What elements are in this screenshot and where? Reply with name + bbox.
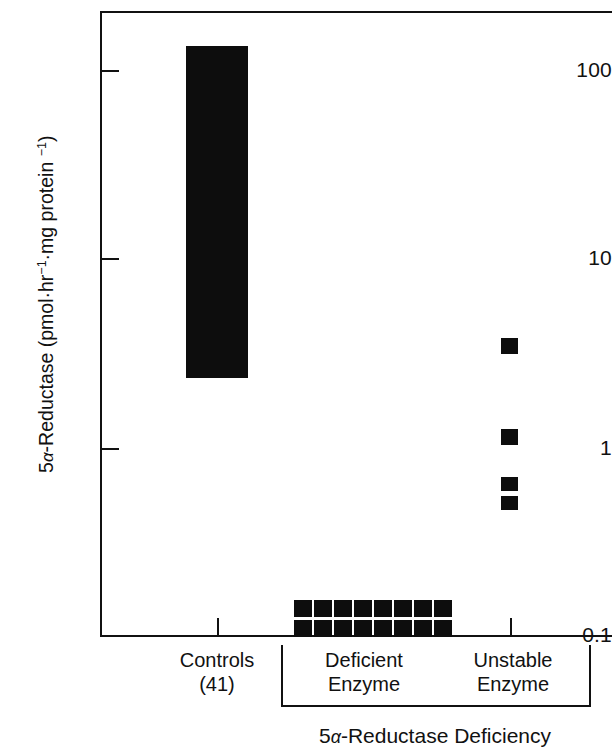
datapoint-unstable xyxy=(501,429,518,445)
plot-top-border xyxy=(100,11,612,13)
y-axis-line xyxy=(100,11,102,637)
figure-panel: 100 10 1 0.1 5α-Reductase (pmol·hr−1·mg … xyxy=(0,0,612,752)
datapoint-deficient xyxy=(314,620,332,637)
y-tick-label-0.1: 0.1 xyxy=(528,624,612,645)
caption-text: -Reductase Deficiency xyxy=(341,724,551,747)
group-label-controls-line2: (41) xyxy=(147,672,287,696)
datapoint-deficient xyxy=(374,600,392,617)
datapoint-deficient xyxy=(434,600,452,617)
datapoint-deficient xyxy=(294,600,312,617)
datapoint-deficient xyxy=(314,600,332,617)
y-tick-mark-1 xyxy=(102,448,119,450)
y-title-superscript-2: −1 xyxy=(35,142,49,156)
datapoint-deficient xyxy=(414,620,432,637)
y-tick-label-100: 100 xyxy=(528,59,612,80)
datapoint-unstable xyxy=(501,496,518,510)
x-tick-mark-unstable xyxy=(510,618,512,635)
datapoint-deficient xyxy=(294,620,312,637)
controls-range-bar xyxy=(186,46,248,378)
y-title-suffix: ) xyxy=(35,136,57,143)
datapoint-deficient xyxy=(434,620,452,637)
group-label-controls: Controls (41) xyxy=(147,648,287,696)
datapoint-unstable xyxy=(501,338,518,354)
datapoint-deficient xyxy=(414,600,432,617)
datapoint-unstable xyxy=(501,477,518,491)
datapoint-deficient xyxy=(334,620,352,637)
datapoint-deficient xyxy=(374,620,392,637)
y-title-prefix: 5 xyxy=(35,462,57,473)
caption-alpha-glyph: α xyxy=(331,727,341,747)
datapoint-deficient xyxy=(354,620,372,637)
datapoint-deficient xyxy=(334,600,352,617)
datapoint-deficient xyxy=(354,600,372,617)
x-axis-title: 5α-Reductase Deficiency xyxy=(200,724,612,749)
y-title-alpha-glyph: α xyxy=(38,452,57,462)
group-label-controls-line1: Controls xyxy=(147,648,287,672)
y-axis-title: 5α-Reductase (pmol·hr−1·mg protein −1) xyxy=(31,24,60,584)
y-tick-label-10: 10 xyxy=(528,247,612,268)
y-title-main: -Reductase (pmol·hr xyxy=(35,275,57,453)
y-tick-mark-100 xyxy=(102,70,119,72)
x-tick-mark-controls xyxy=(217,618,219,635)
caption-prefix: 5 xyxy=(319,724,331,747)
datapoint-deficient xyxy=(394,620,412,637)
y-tick-label-1: 1 xyxy=(528,437,612,458)
deficiency-group-bracket xyxy=(281,645,591,707)
y-title-mid: ·mg protein xyxy=(35,156,57,260)
y-title-superscript-1: −1 xyxy=(35,260,49,274)
datapoint-deficient xyxy=(394,600,412,617)
y-tick-mark-10 xyxy=(102,258,119,260)
